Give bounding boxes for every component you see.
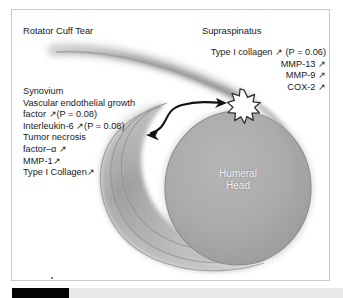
list-item: Interleukin-6 ↗(P = 0.08): [23, 121, 135, 133]
list-item: Vascular endothelial growth: [23, 98, 135, 110]
label-supraspinatus: Supraspinatus: [202, 25, 261, 36]
list-item: factor–α ↗: [23, 144, 135, 156]
list-item: Type I Collagen↗: [23, 167, 135, 179]
list-item: Synovium: [23, 86, 135, 98]
list-item: MMP-1↗: [23, 156, 135, 168]
figure-frame: Rotator Cuff Tear Supraspinatus Type I c…: [11, 9, 330, 281]
supraspinatus-findings-list: Type I collagen ↗ (P = 0.06) MMP-13 ↗ MM…: [146, 47, 326, 93]
bottom-bar-light: [69, 288, 343, 298]
stray-dot-artifact: [51, 277, 53, 279]
label-rotator-cuff-tear: Rotator Cuff Tear: [23, 25, 93, 36]
bottom-bar-dark: [12, 288, 69, 298]
list-item: Tumor necrosis: [23, 132, 135, 144]
humeral-head-shape: [163, 109, 313, 267]
list-item: factor ↗(P = 0.08): [23, 109, 135, 121]
list-item: MMP-9 ↗: [146, 70, 326, 82]
figure-root: Rotator Cuff Tear Supraspinatus Type I c…: [0, 0, 343, 298]
list-item: COX-2 ↗: [146, 82, 326, 94]
list-item: MMP-13 ↗: [146, 59, 326, 71]
synovium-findings-list: Synovium Vascular endothelial growth fac…: [23, 86, 135, 179]
list-item: Type I collagen ↗ (P = 0.06): [146, 47, 326, 59]
